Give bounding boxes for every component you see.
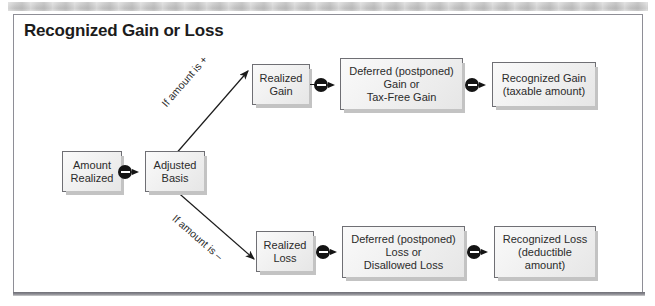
node-recognized-loss: Recognized Loss (deductible amount): [494, 226, 596, 278]
arrowhead-icon: [328, 82, 335, 88]
connector-minus-deferred-to-recognized-loss: [467, 245, 493, 259]
connector-minus-loss-to-deferred: [316, 245, 342, 259]
node-deferred-loss-line3: Disallowed Loss: [364, 259, 443, 271]
figure-title: Recognized Gain or Loss: [24, 21, 223, 41]
arrowhead-icon: [132, 169, 139, 175]
node-amount-realized: Amount Realized: [62, 151, 122, 192]
arrowhead-icon: [479, 82, 486, 88]
node-realized-gain-line2: Gain: [269, 85, 292, 97]
node-realized-loss-line2: Loss: [273, 252, 296, 264]
node-adjusted-basis-label: Adjusted Basis: [151, 159, 200, 185]
minus-bar-icon: [470, 251, 479, 253]
node-deferred-loss: Deferred (postponed) Loss or Disallowed …: [342, 226, 465, 278]
minus-bar-icon: [319, 251, 328, 253]
node-adjusted-basis: Adjusted Basis: [145, 151, 205, 192]
node-adjusted-basis-line2: Basis: [162, 172, 189, 184]
node-recognized-gain: Recognized Gain (taxable amount): [492, 62, 596, 107]
figure-page: Recognized Gain or Loss Amount Realized …: [0, 0, 655, 306]
node-recognized-loss-line3: amount): [525, 259, 565, 271]
connector-minus-gain-to-deferred: [314, 78, 340, 92]
node-realized-gain-line1: Realized: [260, 72, 303, 84]
minus-bar-icon: [121, 171, 130, 173]
node-realized-gain-label: Realized Gain: [257, 72, 306, 98]
minus-bar-icon: [317, 84, 326, 86]
connector-minus-deferred-to-recognized-gain: [465, 78, 491, 92]
node-deferred-loss-line1: Deferred (postponed): [351, 233, 456, 245]
node-recognized-loss-line1: Recognized Loss: [503, 233, 587, 245]
connector-minus-amount-to-basis: [118, 165, 144, 179]
node-recognized-gain-label: Recognized Gain (taxable amount): [499, 72, 589, 98]
arrowhead-icon: [481, 249, 488, 255]
node-adjusted-basis-line1: Adjusted: [154, 159, 197, 171]
node-amount-realized-line2: Realized: [71, 172, 114, 184]
node-deferred-gain-line2: Gain or: [383, 78, 419, 90]
node-deferred-gain-label: Deferred (postponed) Gain or Tax-Free Ga…: [346, 65, 457, 104]
node-deferred-gain-line3: Tax-Free Gain: [367, 91, 437, 103]
minus-bar-icon: [468, 84, 477, 86]
node-amount-realized-line1: Amount: [73, 159, 111, 171]
node-realized-loss-label: Realized Loss: [261, 239, 310, 265]
node-recognized-loss-line2: (deductible: [518, 246, 572, 258]
arrowhead-icon: [330, 249, 337, 255]
node-realized-loss-line1: Realized: [264, 239, 307, 251]
node-realized-gain: Realized Gain: [252, 64, 310, 105]
node-deferred-loss-line2: Loss or: [385, 246, 421, 258]
figure-frame-bottom-edge: [13, 292, 645, 296]
node-realized-loss: Realized Loss: [256, 231, 314, 272]
scan-artifact-band: [8, 2, 648, 11]
node-deferred-loss-label: Deferred (postponed) Loss or Disallowed …: [348, 233, 459, 272]
node-recognized-gain-line1: Recognized Gain: [502, 72, 586, 84]
node-deferred-gain: Deferred (postponed) Gain or Tax-Free Ga…: [340, 58, 463, 110]
node-deferred-gain-line1: Deferred (postponed): [349, 65, 454, 77]
node-recognized-gain-line2: (taxable amount): [503, 85, 586, 97]
node-recognized-loss-label: Recognized Loss (deductible amount): [500, 233, 590, 272]
node-amount-realized-label: Amount Realized: [68, 159, 117, 185]
